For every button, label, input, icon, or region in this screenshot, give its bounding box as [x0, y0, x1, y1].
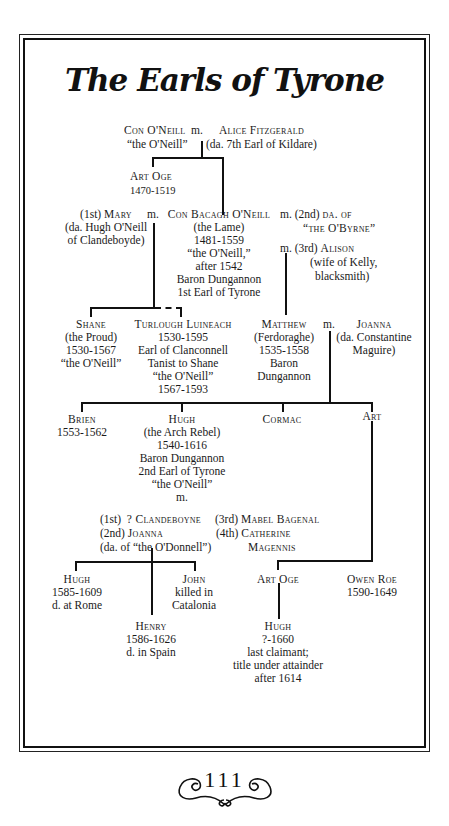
- page-number-flourish-icon: [0, 0, 449, 826]
- page-number: 111: [0, 767, 449, 793]
